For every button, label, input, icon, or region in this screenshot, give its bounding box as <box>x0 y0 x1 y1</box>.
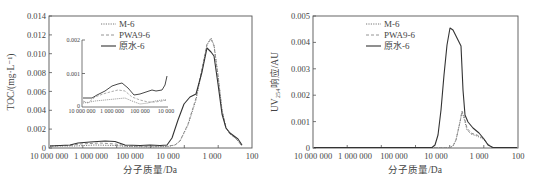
series-raw-water-line <box>314 28 517 148</box>
x-tick: 1 000 <box>469 151 488 161</box>
y-tick: 0.002 <box>291 90 310 100</box>
legend-m6: M-6 <box>384 19 400 29</box>
x-tick: 100 <box>246 151 259 161</box>
inset-y-tick: 0.002 <box>67 37 81 43</box>
inset-x-tick: 1 000 000 <box>100 108 124 114</box>
legend: M-6 PWA9-6 原水-6 <box>366 19 415 51</box>
plot-frame <box>49 16 252 148</box>
x-axis-label: 分子质量/Da <box>123 164 178 175</box>
y-axis-label: TOC/(mg·L⁻¹) <box>6 54 17 111</box>
y-tick: 0.002 <box>27 124 46 134</box>
x-tick: 1 000 <box>202 151 221 161</box>
x-tick: 10 000 <box>156 151 179 161</box>
legend-raw-water: 原水-6 <box>384 40 410 51</box>
inset-y-tick: 0.001 <box>67 71 81 77</box>
x-tick: 1 000 000 <box>74 151 108 161</box>
x-axis-label: 分子质量/Da <box>388 164 443 175</box>
y-tick: 0.006 <box>27 87 46 97</box>
y-tick: 0.004 <box>291 37 311 47</box>
y-tick: 0.010 <box>27 49 46 59</box>
y-tick: 0.012 <box>27 30 46 40</box>
series-raw-water-line <box>50 48 242 146</box>
x-tick: 100 000 <box>116 151 144 161</box>
y-tick: 0.003 <box>291 64 310 74</box>
y-tick: 0.005 <box>291 11 310 21</box>
legend-m6: M-6 <box>119 19 135 29</box>
legend: M-6 PWA9-6 原水-6 <box>101 19 150 51</box>
toc-chart: 0 0.002 0.004 0.006 0.008 0.010 0.012 0.… <box>6 11 258 175</box>
x-tick: 100 <box>512 151 525 161</box>
inset-x-tick: 100 000 <box>130 108 150 114</box>
uv254-chart: 0 0.001 0.002 0.003 0.004 0.005 10 000 0… <box>269 11 524 175</box>
x-tick: 10 000 <box>424 151 447 161</box>
y-axis <box>313 16 316 148</box>
inset-x-tick: 10 000 000 <box>69 108 96 114</box>
figure: 0 0.002 0.004 0.006 0.008 0.010 0.012 0.… <box>0 0 535 189</box>
y-tick: 0.004 <box>27 105 47 115</box>
y-tick: 0.008 <box>27 68 46 78</box>
plot-frame <box>313 16 518 148</box>
x-tick: 1 000 000 <box>338 151 372 161</box>
y-axis-label: UV₂₅₄响应/AU <box>269 52 280 112</box>
x-tick: 100 000 <box>380 151 408 161</box>
y-tick: 0.001 <box>291 117 310 127</box>
legend-raw-water: 原水-6 <box>119 40 145 51</box>
x-tick: 10 000 000 <box>294 151 332 161</box>
legend-pwa96: PWA9-6 <box>384 30 415 40</box>
y-tick: 0.014 <box>27 11 47 21</box>
legend-pwa96: PWA9-6 <box>119 30 150 40</box>
x-tick: 10 000 000 <box>30 151 68 161</box>
inset-x-tick: 10 000 <box>158 108 175 114</box>
